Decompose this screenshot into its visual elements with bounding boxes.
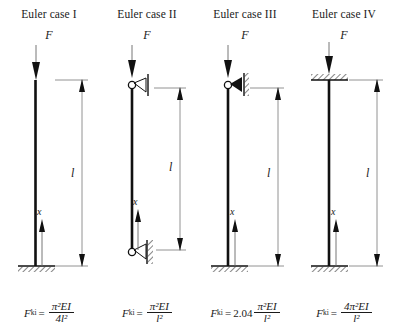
euler-case-4-dimension-label: l bbox=[366, 166, 369, 181]
euler-case-2-dimension-label: l bbox=[169, 160, 172, 175]
formula-symbol: F bbox=[316, 307, 323, 319]
euler-case-4-drawing bbox=[295, 0, 393, 333]
euler-case-2-panel: Euler case II F bbox=[98, 0, 196, 333]
euler-case-3-dimension-label: l bbox=[267, 166, 270, 181]
euler-case-1-drawing bbox=[0, 0, 98, 333]
formula-fraction: π²EI 4l² bbox=[49, 301, 74, 325]
euler-case-1-panel: Euler case I F bbox=[0, 0, 98, 333]
formula-fraction: 4π²EI l² bbox=[341, 301, 372, 325]
euler-case-2-axis-label: x bbox=[133, 196, 137, 207]
formula-subscript: ki bbox=[31, 308, 37, 317]
euler-case-3-panel: Euler case III F bbox=[196, 0, 294, 333]
formula-equals: = bbox=[225, 307, 231, 319]
euler-cases-figure: Euler case I F bbox=[0, 0, 394, 333]
formula-subscript: ki bbox=[129, 308, 135, 317]
formula-equals: = bbox=[331, 307, 337, 319]
euler-case-4-formula: Fki = 4π²EI l² bbox=[295, 301, 393, 325]
formula-denominator: l² bbox=[350, 313, 362, 325]
euler-case-2-formula: Fki = π²EI l² bbox=[98, 301, 196, 325]
euler-case-1-formula: Fki = π²EI 4l² bbox=[0, 301, 98, 325]
euler-case-3-axis-label: x bbox=[230, 206, 234, 217]
formula-denominator: l² bbox=[261, 313, 273, 325]
formula-subscript: ki bbox=[217, 308, 223, 317]
formula-denominator: 4l² bbox=[52, 313, 70, 325]
euler-case-3-drawing bbox=[196, 0, 294, 333]
formula-symbol: F bbox=[24, 307, 31, 319]
euler-case-3-formula: Fki = 2.04 π²EI l² bbox=[196, 301, 294, 325]
euler-case-2-drawing bbox=[98, 0, 196, 333]
euler-case-4-axis-label: x bbox=[331, 206, 335, 217]
formula-equals: = bbox=[39, 307, 45, 319]
formula-subscript: ki bbox=[323, 308, 329, 317]
euler-case-4-panel: Euler case IV F bbox=[295, 0, 393, 333]
formula-denominator: l² bbox=[153, 313, 165, 325]
formula-fraction: π²EI l² bbox=[147, 301, 172, 325]
euler-case-1-dimension-label: l bbox=[71, 166, 74, 181]
formula-symbol: F bbox=[210, 307, 217, 319]
formula-equals: = bbox=[137, 307, 143, 319]
formula-coefficient: 2.04 bbox=[233, 307, 252, 319]
formula-symbol: F bbox=[122, 307, 129, 319]
formula-fraction: π²EI l² bbox=[254, 301, 279, 325]
euler-case-1-axis-label: x bbox=[37, 206, 41, 217]
